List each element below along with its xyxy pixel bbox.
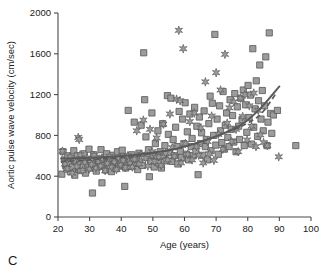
- data-point-square: [269, 130, 275, 136]
- data-point-square: [206, 121, 212, 127]
- data-point-square: [162, 143, 168, 149]
- data-point-square: [143, 134, 149, 140]
- data-point-star: [180, 44, 187, 53]
- data-point-square: [207, 93, 213, 99]
- data-point-square: [142, 97, 148, 103]
- data-point-square: [189, 135, 195, 141]
- data-point-square: [176, 108, 182, 114]
- data-point-square: [173, 124, 179, 130]
- data-point-square: [259, 87, 265, 93]
- scatter-plot: 04008001200160020002030405060708090100Ag…: [0, 0, 328, 274]
- data-point-star: [175, 26, 182, 35]
- data-point-square: [149, 110, 155, 116]
- y-tick-label: 800: [35, 130, 51, 141]
- x-tick-label: 30: [84, 223, 95, 234]
- data-point-square: [201, 108, 207, 114]
- data-point-star: [166, 110, 173, 119]
- x-tick-label: 50: [148, 223, 159, 234]
- y-tick-label: 0: [46, 211, 51, 222]
- data-point-square: [274, 107, 280, 113]
- data-point-square: [257, 62, 263, 68]
- data-point-square: [266, 30, 272, 36]
- data-point-square: [195, 172, 201, 178]
- data-point-square: [180, 116, 186, 122]
- data-point-star: [221, 50, 228, 59]
- x-tick-label: 60: [179, 223, 190, 234]
- data-point-square: [212, 31, 218, 37]
- data-point-square: [168, 95, 174, 101]
- data-point-star: [146, 125, 153, 134]
- data-point-square: [236, 136, 242, 142]
- data-point-square: [119, 147, 125, 153]
- data-point-square: [250, 46, 256, 52]
- y-tick-label: 1200: [30, 89, 51, 100]
- x-tick-label: 100: [303, 223, 319, 234]
- data-point-star: [212, 68, 219, 77]
- data-point-square: [244, 129, 250, 135]
- data-point-square: [141, 50, 147, 56]
- data-point-square: [293, 143, 299, 149]
- figure-panel-c: 04008001200160020002030405060708090100Ag…: [0, 0, 328, 274]
- data-point-star: [275, 153, 282, 162]
- y-axis-title: Aortic pulse wave velocity (cm/sec): [5, 41, 16, 189]
- data-point-square: [213, 142, 219, 148]
- data-point-square: [255, 98, 261, 104]
- data-point-square: [184, 129, 190, 135]
- data-point-square: [265, 119, 271, 125]
- data-point-square: [122, 183, 128, 189]
- data-point-star: [202, 78, 209, 87]
- data-point-square: [229, 112, 235, 118]
- x-tick-label: 20: [53, 223, 64, 234]
- data-point-square: [152, 140, 158, 146]
- data-point-square: [234, 104, 240, 110]
- data-point-square: [99, 180, 105, 186]
- data-point-square: [125, 107, 131, 113]
- data-point-square: [146, 174, 152, 180]
- y-tick-label: 2000: [30, 7, 51, 18]
- data-point-square: [155, 128, 161, 134]
- data-point-square: [214, 116, 220, 122]
- x-tick-label: 80: [242, 223, 253, 234]
- data-point-star: [186, 117, 193, 126]
- data-point-square: [209, 100, 215, 106]
- y-tick-label: 400: [35, 171, 51, 182]
- x-tick-label: 90: [274, 223, 285, 234]
- x-axis-title: Age (years): [160, 239, 209, 250]
- data-point-square: [131, 119, 137, 125]
- x-tick-label: 40: [116, 223, 127, 234]
- data-point-square: [217, 103, 223, 109]
- data-point-square: [253, 78, 259, 84]
- data-point-square: [170, 136, 176, 142]
- data-point-square: [241, 143, 247, 149]
- x-tick-label: 70: [211, 223, 222, 234]
- data-point-square: [215, 151, 221, 157]
- data-point-square: [89, 190, 95, 196]
- y-tick-label: 1600: [30, 48, 51, 59]
- data-point-square: [245, 82, 251, 88]
- data-point-square: [219, 139, 225, 145]
- data-point-square: [263, 54, 269, 60]
